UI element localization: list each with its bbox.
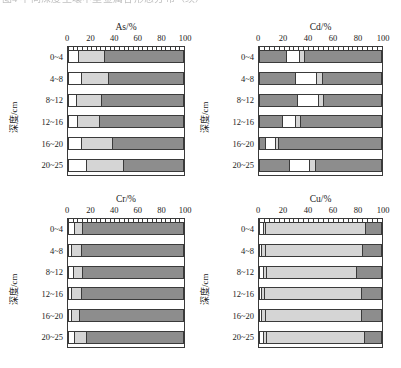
x-tick-label: 0: [256, 205, 260, 215]
stacked-bar: [259, 222, 382, 235]
x-tick-label: 20: [279, 205, 288, 215]
stacked-bar: [259, 331, 382, 344]
stacked-bar: [259, 244, 382, 257]
y-category-label: 0~4: [241, 224, 254, 234]
x-tick-label: 40: [304, 205, 313, 215]
bar-segment: [266, 245, 363, 256]
bar-segment: [366, 223, 381, 234]
x-tick-label: 100: [377, 205, 390, 215]
bar-segment: [363, 245, 381, 256]
y-category-label: 4~8: [241, 246, 254, 256]
panel-cu: Cu/%020406080100深度/cm0~44~88~1212~1616~2…: [0, 0, 401, 368]
bar-segment: [362, 288, 381, 299]
stacked-bar: [259, 309, 382, 322]
bar-segment: [267, 332, 365, 343]
y-axis-label-cu: 深度/cm: [198, 274, 211, 306]
bar-segment: [267, 267, 357, 278]
panel-title-cu: Cu/%: [258, 194, 383, 205]
stacked-bar: [259, 266, 382, 279]
bar-segment: [266, 223, 366, 234]
plot-area-cu: [258, 218, 383, 348]
y-category-label: 16~20: [232, 311, 254, 321]
bar-segment: [266, 310, 362, 321]
y-category-label: 20~25: [232, 332, 254, 342]
bar-segment: [365, 332, 381, 343]
x-tick-label: 60: [329, 205, 338, 215]
x-tick-labels-cu: 020406080100: [258, 205, 383, 217]
x-tick-label: 80: [354, 205, 363, 215]
y-category-labels-cu: 0~44~88~1212~1616~2020~25: [214, 218, 254, 348]
y-category-label: 12~16: [232, 289, 254, 299]
bar-segment: [362, 310, 381, 321]
bar-segment: [357, 267, 381, 278]
y-category-label: 8~12: [237, 267, 254, 277]
stacked-bar: [259, 287, 382, 300]
bar-segment: [265, 288, 362, 299]
figure-root: 图4 不同深度土壤中重金属各形态分布（续） As/%020406080100深度…: [0, 0, 401, 368]
